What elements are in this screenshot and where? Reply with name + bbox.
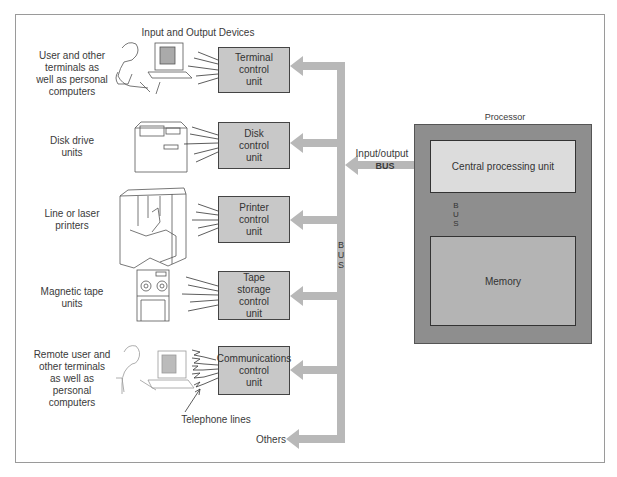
bus-vertical-label: B U S — [336, 240, 346, 270]
terminal-control-unit: Terminal control unit — [218, 47, 290, 93]
cpu-label: Central processing unit — [452, 161, 554, 172]
processor-title: Processor — [460, 111, 550, 123]
memory-label: Memory — [485, 276, 521, 287]
io-bus-label: Input/output — [352, 148, 412, 160]
io-bus-name: BUS — [360, 160, 410, 172]
terminal-user-icon — [116, 43, 192, 94]
printer-control-unit: Printer control unit — [218, 196, 290, 243]
system-bus — [286, 56, 430, 449]
printer-icon — [120, 188, 186, 268]
disk-drive-icon — [135, 122, 187, 172]
memory-box: Memory — [430, 236, 576, 326]
tape-drive-icon — [137, 270, 169, 321]
tape-storage-control-unit: Tape storage control unit — [218, 271, 290, 320]
others-label: Others — [246, 434, 286, 446]
internal-bus-label: B U S — [451, 201, 461, 228]
disk-control-unit: Disk control unit — [218, 122, 290, 169]
communications-control-unit: Communications control unit — [218, 346, 290, 395]
remote-terminal-icon — [116, 346, 194, 394]
telephone-lines-label: Telephone lines — [176, 414, 256, 426]
cpu-box: Central processing unit — [430, 140, 576, 193]
